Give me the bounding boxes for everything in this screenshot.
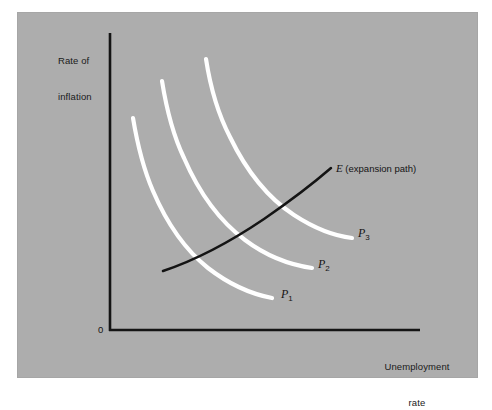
curve-label-p2: P2 — [318, 257, 330, 273]
phillips-curve-p3 — [206, 59, 352, 238]
curve-label-p3-subscript: 3 — [365, 233, 369, 242]
curve-label-p1: P1 — [281, 287, 293, 303]
expansion-path-text: (expansion path) — [343, 163, 416, 174]
y-axis-label-line2: inflation — [58, 91, 118, 103]
x-axis-label-line2: rate — [367, 397, 467, 409]
expansion-path-symbol: E — [336, 162, 343, 174]
curve-label-p3: P3 — [358, 226, 370, 242]
origin-label: 0 — [98, 324, 103, 335]
curve-label-p1-subscript: 1 — [288, 294, 292, 303]
expansion-path-label: E (expansion path) — [336, 162, 416, 174]
axes-group — [109, 33, 420, 331]
curve-label-p2-subscript: 2 — [325, 264, 329, 273]
expansion-path-curve — [163, 168, 331, 271]
x-axis-label: Unemployment rate — [367, 337, 467, 410]
phillips-curve-p2 — [162, 81, 312, 268]
y-axis-label-line1: Rate of — [58, 55, 118, 67]
x-axis-label-line1: Unemployment — [367, 361, 467, 373]
phillips-curve-p1 — [133, 118, 272, 298]
y-axis-label: Rate of inflation — [58, 31, 118, 127]
